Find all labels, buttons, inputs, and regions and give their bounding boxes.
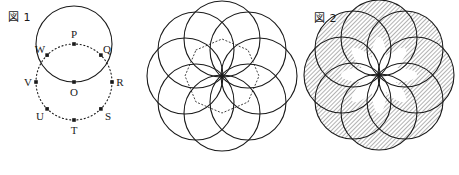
point-marker-p xyxy=(72,42,76,46)
figure-middle-panel xyxy=(140,0,305,175)
point-label-p: P xyxy=(71,28,77,40)
figure-2-label: 図 2 xyxy=(314,9,337,25)
figure-1-drawing: P Q R S T U V W O xyxy=(0,0,150,175)
point-label-u: U xyxy=(36,110,44,122)
point-label-w: W xyxy=(35,43,46,55)
point-marker-s xyxy=(99,107,103,111)
point-marker-r xyxy=(110,80,114,84)
figure-2-panel: 図 2 xyxy=(300,0,459,175)
point-marker-v xyxy=(34,80,38,84)
point-label-t: T xyxy=(71,124,78,136)
point-label-r: R xyxy=(116,76,124,88)
point-marker-t xyxy=(72,118,76,122)
fig2-center-marker xyxy=(377,73,380,76)
point-label-v: V xyxy=(24,76,32,88)
point-label-q: Q xyxy=(103,43,111,55)
figure-1-label: 図 1 xyxy=(8,8,31,24)
rosette-center-marker xyxy=(220,74,223,77)
point-marker-u xyxy=(45,107,49,111)
figure-2-drawing xyxy=(300,0,459,175)
figure-1-panel: 図 1 P Q xyxy=(0,0,150,175)
point-label-s: S xyxy=(105,110,111,122)
figure-sheet: 図 1 P Q xyxy=(0,0,459,175)
point-marker-o xyxy=(72,80,76,84)
point-marker-w xyxy=(45,53,49,57)
figure-middle-drawing xyxy=(140,0,305,175)
point-label-o: O xyxy=(70,86,78,98)
